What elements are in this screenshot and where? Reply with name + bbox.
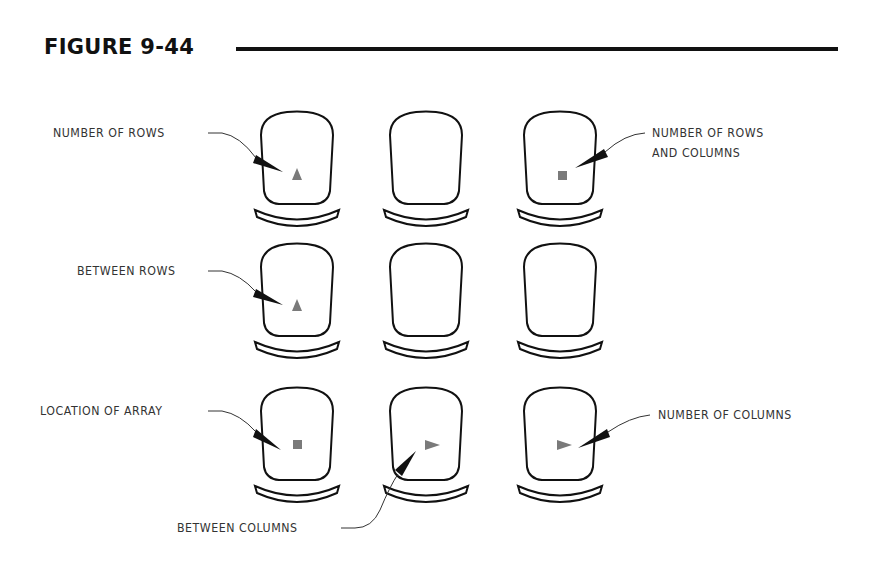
label-number-of-rows-and-columns-1: NUMBER OF ROWS [652,123,764,143]
seat-r2c3 [518,244,602,359]
square-icon [293,440,302,449]
square-icon [558,171,567,180]
label-location-of-array: LOCATION OF ARRAY [40,401,163,421]
arrow-icon [253,155,283,172]
array-diagram [0,0,875,578]
label-number-of-columns: NUMBER OF COLUMNS [658,405,792,425]
label-between-columns: BETWEEN COLUMNS [177,518,298,538]
triangle-right-icon [425,440,440,450]
seat-r1c2 [384,112,468,227]
label-between-rows: BETWEEN ROWS [77,261,175,281]
arrow-icon [395,451,416,476]
arrow-icon [253,289,283,305]
label-number-of-rows: NUMBER OF ROWS [53,123,165,143]
arrow-icon [253,429,281,450]
label-number-of-rows-and-columns-2: AND COLUMNS [652,143,740,163]
triangle-right-icon [557,440,572,450]
seat-r1c3 [518,112,602,227]
seat-r2c2 [384,244,468,359]
triangle-up-icon [292,299,302,311]
triangle-up-icon [292,168,302,180]
arrow-icon [575,149,608,168]
